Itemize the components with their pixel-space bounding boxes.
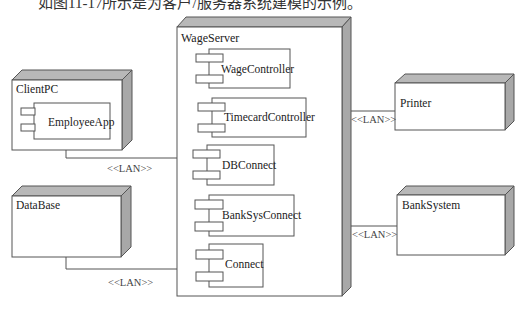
timecardcontroller-label: TimecardController bbox=[224, 112, 315, 124]
database-label: DataBase bbox=[16, 200, 60, 212]
db-server-link bbox=[66, 257, 177, 269]
lan-label-bank: <<LAN>> bbox=[352, 230, 397, 241]
dbconnect-label: DBConnect bbox=[222, 160, 276, 172]
connect-label: Connect bbox=[225, 259, 263, 271]
lan-label-database: <<LAN>> bbox=[108, 278, 153, 289]
clientpc-label: ClientPC bbox=[16, 84, 58, 96]
lan-label-client: <<LAN>> bbox=[107, 164, 152, 175]
deployment-diagram bbox=[0, 0, 528, 311]
lan-label-printer: <<LAN>> bbox=[351, 115, 396, 126]
banksystem-label: BankSystem bbox=[402, 200, 460, 212]
printer-label: Printer bbox=[400, 98, 431, 110]
banksystem-node bbox=[397, 186, 514, 255]
banksysconnect-label: BankSysConnect bbox=[222, 210, 301, 222]
wagecontroller-label: WageController bbox=[221, 64, 294, 76]
employeeapp-label: EmployeeApp bbox=[48, 117, 114, 129]
wageserver-label: WageServer bbox=[181, 32, 239, 44]
database-node bbox=[12, 186, 131, 257]
